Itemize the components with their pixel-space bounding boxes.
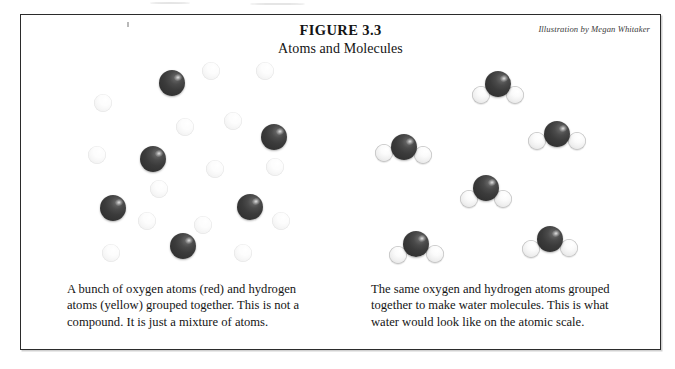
oxygen-atom <box>537 226 563 252</box>
figure-page: FIGURE 3.3 Atoms and Molecules Illustrat… <box>0 0 675 369</box>
hydrogen-atom <box>150 180 168 198</box>
oxygen-atom <box>159 70 185 96</box>
illustration-credit: Illustration by Megan Whitaker <box>538 24 650 34</box>
oxygen-atom <box>170 233 196 259</box>
hydrogen-atom <box>206 160 224 178</box>
hydrogen-atom <box>266 158 284 176</box>
caption-left: A bunch of oxygen atoms (red) and hydrog… <box>67 281 317 330</box>
oxygen-atom <box>100 195 126 221</box>
panel-mixture-of-atoms <box>67 61 339 275</box>
panel-water-molecules <box>371 61 643 275</box>
hydrogen-atom <box>272 212 290 230</box>
oxygen-atom <box>140 146 166 172</box>
oxygen-atom <box>237 194 263 220</box>
hydrogen-atom <box>102 244 120 262</box>
hydrogen-atom <box>88 146 106 164</box>
water-molecule <box>371 61 643 275</box>
figure-subtitle: Atoms and Molecules <box>21 41 660 57</box>
caption-right: The same oxygen and hydrogen atoms group… <box>371 281 627 330</box>
oxygen-atom <box>261 124 287 150</box>
figure-frame: FIGURE 3.3 Atoms and Molecules Illustrat… <box>20 14 661 350</box>
hydrogen-atom <box>176 118 194 136</box>
hydrogen-atom <box>94 94 112 112</box>
hydrogen-atom <box>194 216 212 234</box>
hydrogen-atom <box>138 212 156 230</box>
hydrogen-atom <box>224 112 242 130</box>
hydrogen-atom <box>256 62 274 80</box>
scan-artifact <box>150 2 190 4</box>
hydrogen-atom <box>234 244 252 262</box>
scan-artifact <box>250 3 305 5</box>
hydrogen-atom <box>202 62 220 80</box>
